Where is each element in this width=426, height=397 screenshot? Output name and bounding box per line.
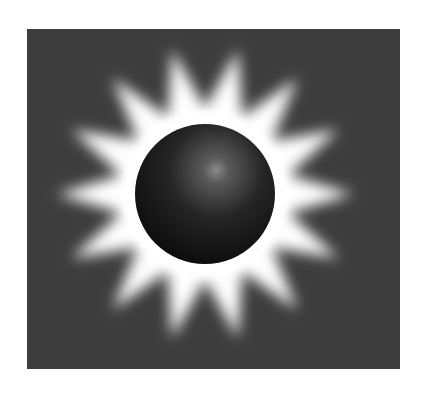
dark-sphere [135,124,275,264]
eclipse-sun-icon [0,0,426,397]
